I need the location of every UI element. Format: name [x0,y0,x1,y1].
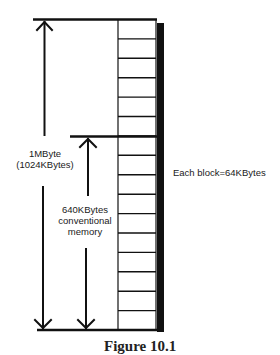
conventional-memory-word: conventional [52,215,118,226]
conventional-memory-size: 640KBytes [52,204,118,215]
total-memory-arrow [35,22,52,328]
total-memory-size: 1MByte [10,148,80,159]
total-memory-label: 1MByte (1024KBytes) [10,148,80,170]
conventional-memory-label: 640KBytes conventional memory [52,204,118,237]
memory-column-shadow [157,23,164,332]
memory-block-dividers [118,39,156,311]
total-memory-kb: (1024KBytes) [10,159,80,170]
conventional-memory-word2: memory [52,226,118,237]
block-size-note: Each block=64KBytes [173,167,266,178]
figure-caption: Figure 10.1 [104,338,176,355]
